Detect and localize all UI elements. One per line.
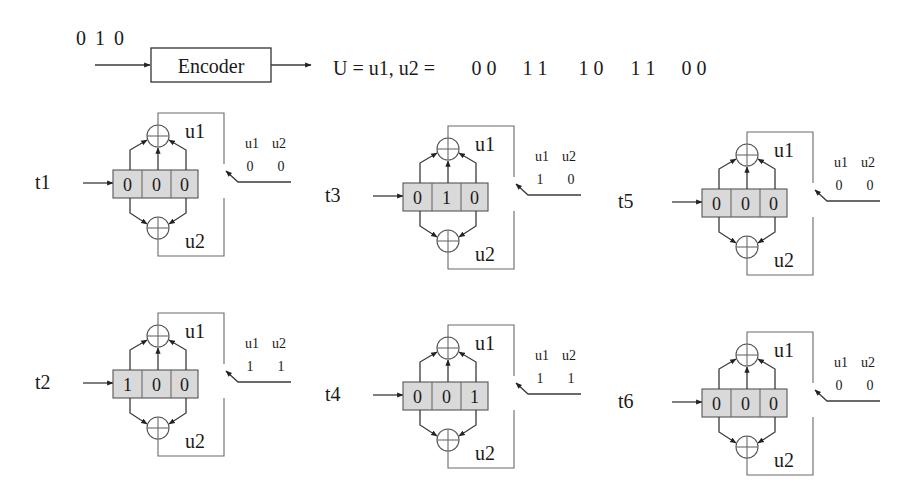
output-u1-value: 0 — [836, 378, 843, 393]
output-header-u1: u1 — [535, 348, 549, 363]
output-header-u2: u2 — [272, 336, 286, 351]
output-header-u2: u2 — [861, 155, 875, 170]
adder-top-label: u1 — [774, 139, 794, 161]
encoder-overview: 0 1 0 Encoder U = u1, u2 = 0 0 1 1 1 0 1… — [76, 27, 707, 82]
adder-top-label: u1 — [475, 332, 495, 354]
input-bits: 0 1 0 — [76, 27, 126, 49]
adder-top-label: u1 — [774, 339, 794, 361]
register-cell-2: 1 — [442, 188, 451, 208]
output-u2-value: 0 — [278, 159, 285, 174]
output-header-u2: u2 — [861, 355, 875, 370]
output-pair-1: 0 0 — [472, 57, 497, 79]
output-header-u1: u1 — [245, 336, 259, 351]
output-u2-value: 0 — [867, 178, 874, 193]
time-label: t4 — [325, 383, 341, 405]
time-label: t5 — [618, 190, 634, 212]
time-label: t2 — [35, 371, 51, 393]
output-u1-value: 0 — [247, 159, 254, 174]
register-cell-2: 0 — [442, 387, 451, 407]
output-header-u2: u2 — [562, 149, 576, 164]
adder-bottom-label: u2 — [774, 249, 794, 271]
output-header-u2: u2 — [272, 136, 286, 151]
register-cell-3: 0 — [180, 375, 189, 395]
register-cell-1: 0 — [712, 194, 721, 214]
register-cell-3: 0 — [470, 188, 479, 208]
register-cell-2: 0 — [152, 175, 161, 195]
adder-bottom-label: u2 — [475, 442, 495, 464]
output-prefix: U = u1, u2 = — [333, 57, 435, 79]
output-u2-value: 1 — [568, 371, 575, 386]
output-pair-2: 1 1 — [523, 57, 548, 79]
output-header-u1: u1 — [535, 149, 549, 164]
time-step-block-t1: t1 0 0 0 u1 u2 u1 u2 0 0 — [35, 113, 291, 256]
time-step-block-t6: t6 0 0 0 u1 u2 u1 u2 0 0 — [618, 332, 880, 475]
output-pair-4: 1 1 — [631, 57, 656, 79]
register-cell-1: 0 — [712, 394, 721, 414]
convolutional-encoder-diagram: 0 1 0 Encoder U = u1, u2 = 0 0 1 1 1 0 1… — [0, 0, 916, 495]
adder-bottom-label: u2 — [185, 230, 205, 252]
encoder-label: Encoder — [178, 55, 245, 77]
register-cell-3: 0 — [769, 394, 778, 414]
adder-bottom-label: u2 — [774, 449, 794, 471]
adder-top-label: u1 — [185, 120, 205, 142]
time-step-block-t3: t3 0 1 0 u1 u2 u1 u2 1 0 — [325, 126, 581, 269]
output-header-u1: u1 — [245, 136, 259, 151]
output-pair-3: 1 0 — [579, 57, 604, 79]
adder-top-label: u1 — [475, 133, 495, 155]
output-u2-value: 0 — [568, 172, 575, 187]
adder-top-label: u1 — [185, 320, 205, 342]
register-cell-3: 0 — [180, 175, 189, 195]
register-cell-3: 0 — [769, 194, 778, 214]
output-header-u1: u1 — [834, 355, 848, 370]
output-header-u1: u1 — [834, 155, 848, 170]
output-u1-value: 1 — [247, 359, 254, 374]
register-cell-1: 0 — [413, 188, 422, 208]
output-header-u2: u2 — [562, 348, 576, 363]
output-u1-value: 0 — [836, 178, 843, 193]
time-label: t3 — [325, 184, 341, 206]
adder-bottom-label: u2 — [185, 430, 205, 452]
register-cell-1: 0 — [413, 387, 422, 407]
register-cell-2: 0 — [152, 375, 161, 395]
output-u2-value: 1 — [278, 359, 285, 374]
time-step-block-t2: t2 1 0 0 u1 u2 u1 u2 1 1 — [35, 313, 291, 456]
time-label: t6 — [618, 390, 634, 412]
time-label: t1 — [35, 171, 51, 193]
output-u1-value: 1 — [537, 371, 544, 386]
register-cell-1: 1 — [123, 375, 132, 395]
register-cell-1: 0 — [123, 175, 132, 195]
adder-bottom-label: u2 — [475, 243, 495, 265]
register-cell-3: 1 — [470, 387, 479, 407]
register-cell-2: 0 — [741, 194, 750, 214]
output-u1-value: 1 — [537, 172, 544, 187]
output-pair-5: 0 0 — [682, 57, 707, 79]
time-step-block-t5: t5 0 0 0 u1 u2 u1 u2 0 0 — [618, 132, 880, 275]
time-step-block-t4: t4 0 0 1 u1 u2 u1 u2 1 1 — [325, 325, 581, 468]
register-cell-2: 0 — [741, 394, 750, 414]
output-u2-value: 0 — [867, 378, 874, 393]
